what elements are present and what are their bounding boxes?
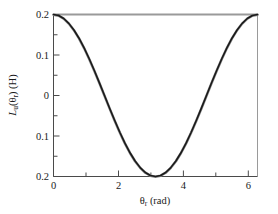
y-tick-label: 0.2	[36, 171, 49, 182]
x-tick-label: 0	[51, 180, 56, 191]
x-tick-label: 6	[246, 180, 251, 191]
x-axis-title: θr (rad)	[140, 195, 171, 208]
y-tick-labels: 0.2 0.1 0 0.1 0.2	[36, 9, 49, 182]
y-tick-label: 0	[44, 90, 49, 101]
y-axis-title: Lu(θr) (H)	[7, 74, 20, 117]
chart-plot: 0.2 0.1 0 0.1 0.2 0 2 4 6 θr (rad) Lu(θr…	[0, 0, 278, 214]
x-tick-label: 4	[181, 180, 187, 191]
plot-frame	[54, 15, 258, 177]
y-tick-label: 0.1	[36, 131, 49, 142]
x-tick-labels: 0 2 4 6	[51, 180, 251, 191]
y-tick-label: 0.1	[36, 50, 49, 61]
x-tick-label: 2	[116, 180, 121, 191]
chart-figure: 0.2 0.1 0 0.1 0.2 0 2 4 6 θr (rad) Lu(θr…	[0, 0, 278, 214]
y-tick-label: 0.2	[36, 9, 49, 20]
